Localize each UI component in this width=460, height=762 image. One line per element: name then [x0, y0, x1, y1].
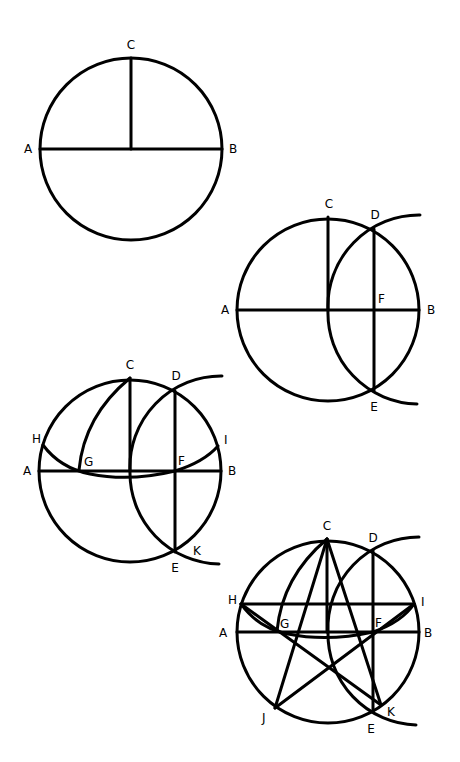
label-a: A	[221, 303, 230, 317]
label-j: J	[261, 711, 266, 725]
label-d: D	[370, 208, 379, 222]
label-c: C	[126, 358, 134, 372]
label-g: G	[84, 455, 93, 469]
label-i: I	[224, 433, 228, 447]
label-e: E	[367, 722, 375, 736]
label-i: I	[421, 595, 425, 609]
label-k: K	[193, 544, 202, 558]
construction-svg: C A B C D A B F E C D H I G F A B K E	[0, 0, 460, 762]
label-d: D	[368, 531, 377, 545]
label-f: F	[375, 616, 382, 630]
step-3: C D H I G F A B K E	[23, 358, 236, 575]
label-k: K	[387, 705, 396, 719]
label-e: E	[370, 400, 378, 414]
label-b: B	[228, 464, 236, 478]
diagram-canvas: C A B C D A B F E C D H I G F A B K E	[0, 0, 460, 762]
label-e: E	[171, 561, 179, 575]
label-h: H	[32, 432, 41, 446]
label-c: C	[127, 38, 135, 52]
label-b: B	[427, 303, 435, 317]
label-g: G	[280, 617, 289, 631]
label-f: F	[378, 292, 385, 306]
label-c: C	[323, 519, 331, 533]
label-a: A	[23, 464, 32, 478]
star-i-j	[275, 604, 414, 708]
step-1: C A B	[24, 38, 237, 240]
label-h: H	[228, 593, 237, 607]
label-a: A	[24, 142, 33, 156]
star-h-k	[241, 604, 381, 705]
label-b: B	[229, 142, 237, 156]
step-4: C D H I G F A B J K E	[219, 519, 432, 736]
label-c: C	[325, 197, 333, 211]
label-f: F	[178, 454, 185, 468]
label-d: D	[171, 369, 180, 383]
label-b: B	[424, 626, 432, 640]
step-2: C D A B F E	[221, 197, 435, 414]
label-a: A	[219, 626, 228, 640]
